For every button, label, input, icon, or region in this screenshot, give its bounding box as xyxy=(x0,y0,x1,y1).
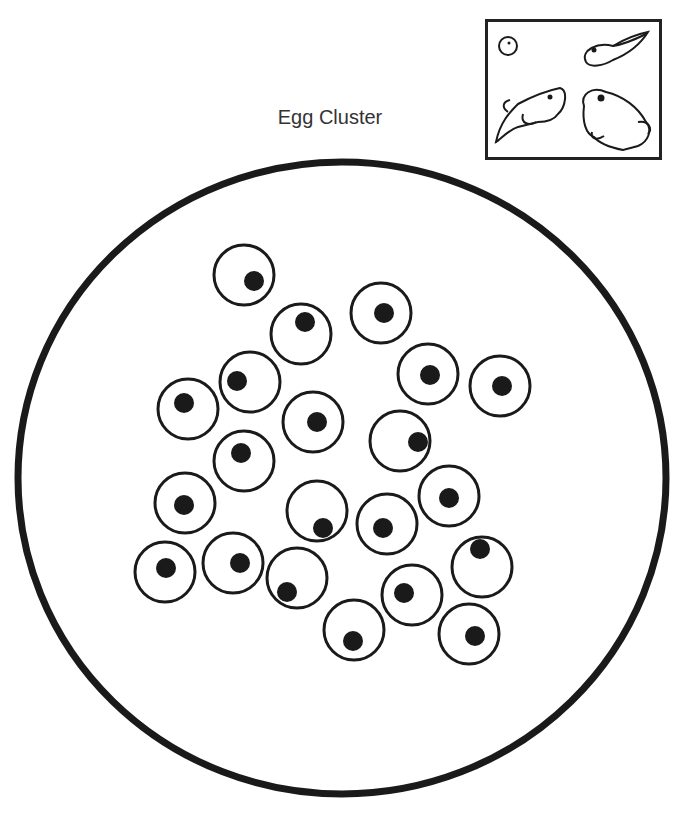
egg xyxy=(398,344,458,404)
egg xyxy=(370,411,430,471)
egg xyxy=(283,392,343,452)
egg xyxy=(439,604,499,664)
life-cycle-inset xyxy=(485,19,662,160)
embryo-dot xyxy=(295,312,315,332)
egg xyxy=(324,600,384,660)
embryo-dot xyxy=(394,583,414,603)
embryo-dot xyxy=(230,553,250,573)
egg xyxy=(155,473,215,533)
egg-icon xyxy=(499,37,517,55)
embryo-dot xyxy=(231,443,251,463)
embryo-dot xyxy=(470,539,490,559)
egg xyxy=(470,356,530,416)
embryo-dot xyxy=(307,412,327,432)
embryo-dot xyxy=(156,558,176,578)
embryo-dot xyxy=(343,631,363,651)
embryo-dot xyxy=(408,432,428,452)
embryo-dot xyxy=(227,371,247,391)
embryo-dot xyxy=(313,518,333,538)
egg xyxy=(271,304,331,364)
egg xyxy=(203,533,263,593)
frog-icon xyxy=(583,90,650,150)
embryo-dot xyxy=(174,495,194,515)
egg xyxy=(351,283,411,343)
embryo-dot xyxy=(374,303,394,323)
egg xyxy=(158,379,218,439)
embryo-dot xyxy=(492,376,512,396)
embryo-dot xyxy=(439,488,459,508)
embryo-dot xyxy=(174,393,194,413)
egg xyxy=(357,494,417,554)
tadpole-icon xyxy=(585,32,648,66)
egg xyxy=(220,352,280,412)
egg xyxy=(419,466,479,526)
embryo-dot xyxy=(465,626,485,646)
cluster-outline xyxy=(18,162,666,794)
egg xyxy=(267,548,327,608)
froglet-icon xyxy=(496,88,565,142)
egg xyxy=(287,481,347,541)
egg xyxy=(135,542,195,602)
egg xyxy=(214,245,274,305)
egg xyxy=(452,537,512,597)
eggs-group xyxy=(135,245,530,664)
embryo-dot xyxy=(277,582,297,602)
embryo-dot xyxy=(244,271,264,291)
egg xyxy=(214,431,274,491)
embryo-dot xyxy=(373,518,393,538)
egg xyxy=(382,565,442,625)
embryo-dot xyxy=(420,365,440,385)
